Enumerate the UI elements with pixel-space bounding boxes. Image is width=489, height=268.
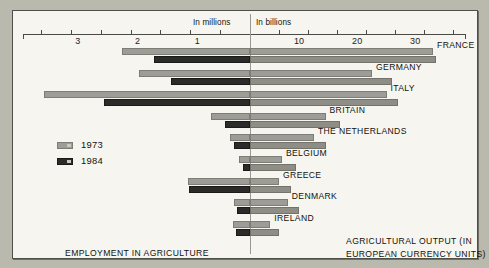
plot-area: 321102030In millionsIn billionsFRANCEGER… <box>13 11 477 258</box>
legend-label: 1973 <box>81 139 103 150</box>
left-major-tick <box>190 30 191 35</box>
right-minor-tick <box>453 30 454 35</box>
bar-employment-1973 <box>230 134 250 141</box>
right-tick-label: 30 <box>410 36 420 46</box>
left-axis-rule <box>23 34 250 35</box>
chart-row <box>13 91 477 113</box>
bar-output-1973 <box>250 91 387 98</box>
country-label: DENMARK <box>292 191 337 201</box>
right-major-tick <box>308 30 309 35</box>
bar-output-1973 <box>250 48 433 55</box>
right-minor-tick <box>279 30 280 35</box>
left-minor-tick <box>160 30 161 35</box>
bar-employment-1973 <box>44 91 250 98</box>
right-caption-line-1: AGRICULTURAL OUTPUT (IN <box>346 235 486 248</box>
country-label: ITALY <box>391 83 415 93</box>
chart-row <box>13 113 477 135</box>
left-tick-label: 2 <box>135 36 140 46</box>
bar-output-1984 <box>250 99 398 106</box>
bar-employment-1984 <box>234 142 250 149</box>
bar-employment-1973 <box>234 199 250 206</box>
legend-swatch-highlight <box>67 144 71 147</box>
left-axis-cap <box>23 34 24 39</box>
bar-employment-1973 <box>139 70 250 77</box>
bar-employment-1973 <box>239 156 250 163</box>
left-unit-label: In millions <box>193 18 231 27</box>
country-label: GERMANY <box>376 62 422 72</box>
bar-employment-1984 <box>189 186 250 193</box>
bar-employment-1973 <box>188 178 250 185</box>
country-label: THE NETHERLANDS <box>318 126 407 136</box>
bar-output-1973 <box>250 134 314 141</box>
left-tick-label: 1 <box>195 36 200 46</box>
bar-output-1973 <box>250 199 288 206</box>
left-minor-tick <box>101 30 102 35</box>
bar-employment-1973 <box>233 221 250 228</box>
chart-screenshot: 321102030In millionsIn billionsFRANCEGER… <box>0 0 489 268</box>
country-label: GREECE <box>283 170 321 180</box>
left-tick-label: 3 <box>75 36 80 46</box>
legend-label: 1984 <box>81 155 103 166</box>
bar-employment-1984 <box>225 121 250 128</box>
left-minor-tick <box>220 30 221 35</box>
country-label: BELGIUM <box>286 148 327 158</box>
right-minor-tick <box>395 30 396 35</box>
bar-employment-1984 <box>243 164 250 171</box>
bar-output-1973 <box>250 156 282 163</box>
chart-panel: 321102030In millionsIn billionsFRANCEGER… <box>12 10 478 259</box>
legend-swatch-highlight <box>67 160 71 163</box>
bar-employment-1984 <box>236 229 250 236</box>
right-tick-label: 10 <box>294 36 304 46</box>
right-minor-tick <box>337 30 338 35</box>
legend-swatch-1984 <box>57 158 73 165</box>
bar-employment-1984 <box>154 56 250 63</box>
left-caption: EMPLOYMENT IN AGRICULTURE <box>65 247 209 260</box>
bar-employment-1973 <box>122 48 250 55</box>
bar-output-1984 <box>250 186 291 193</box>
bar-output-1973 <box>250 70 372 77</box>
right-axis-rule <box>250 34 465 35</box>
right-caption-line-2: EUROPEAN CURRENCY UNITS) <box>346 248 486 261</box>
right-caption: AGRICULTURAL OUTPUT (INEUROPEAN CURRENCY… <box>346 235 486 261</box>
bar-output-1973 <box>250 113 326 120</box>
right-axis-cap <box>465 34 466 39</box>
left-minor-tick <box>41 30 42 35</box>
bar-employment-1984 <box>237 207 250 214</box>
bar-output-1973 <box>250 178 279 185</box>
country-label: IRELAND <box>274 213 314 223</box>
right-major-tick <box>424 30 425 35</box>
bar-employment-1984 <box>171 78 250 85</box>
left-major-tick <box>131 30 132 35</box>
right-major-tick <box>366 30 367 35</box>
legend-swatch-1973 <box>57 142 73 149</box>
bar-output-1984 <box>250 78 392 85</box>
country-label: FRANCE <box>437 40 474 50</box>
bar-employment-1973 <box>211 113 250 120</box>
country-label: BRITAIN <box>330 105 366 115</box>
bar-output-1973 <box>250 221 270 228</box>
right-unit-label: In billions <box>256 18 291 27</box>
right-tick-label: 20 <box>352 36 362 46</box>
bar-employment-1984 <box>104 99 250 106</box>
chart-row <box>13 178 477 200</box>
chart-row <box>13 199 477 221</box>
bar-output-1984 <box>250 229 279 236</box>
left-major-tick <box>71 30 72 35</box>
